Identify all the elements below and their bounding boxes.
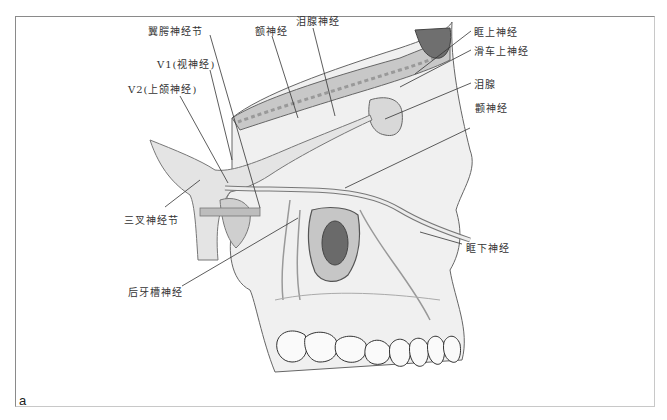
label-supraorbital-nerve: 眶上神经 (474, 24, 518, 39)
maxillary-nerve-illustration (0, 0, 667, 420)
label-lacrimal-nerve: 泪腺神经 (296, 13, 340, 28)
label-supratrochlear-nerve: 滑车上神经 (474, 43, 529, 58)
label-pterygopalatine-ganglion: 翼腭神经节 (148, 23, 203, 38)
leader-line-v1-ophthalmic (210, 70, 232, 160)
label-lacrimal-gland: 泪腺 (474, 76, 496, 91)
label-v1-ophthalmic: V1(视神经) (157, 56, 215, 71)
label-v2-maxillary: V2(上颌神经) (128, 81, 197, 96)
label-trigeminal-ganglion: 三叉神经节 (124, 212, 179, 227)
panel-label: a (19, 393, 26, 408)
label-frontal-nerve: 额神经 (255, 23, 288, 38)
sinus-dark (322, 221, 348, 265)
label-infraorbital-nerve: 眶下神经 (466, 240, 510, 255)
label-zygomatic-nerve: 颧神经 (475, 100, 508, 115)
label-posterior-superior-alveolar-nerve: 后牙槽神经 (128, 284, 183, 299)
